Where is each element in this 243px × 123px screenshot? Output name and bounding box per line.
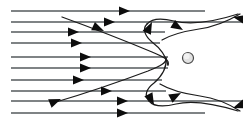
circular-obstacle bbox=[183, 53, 194, 64]
obstacle-highlight bbox=[184, 53, 190, 59]
figure-background bbox=[0, 0, 243, 123]
flow-diagram-canvas bbox=[0, 0, 243, 123]
streamline-figure bbox=[0, 0, 243, 123]
